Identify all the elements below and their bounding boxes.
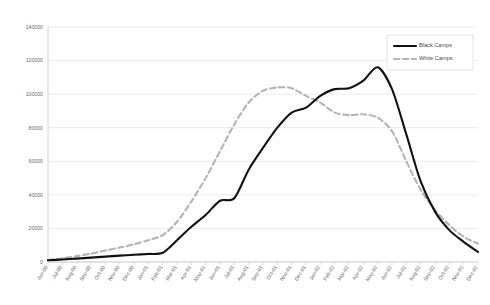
x-axis-tick-label: Jul-00 — [51, 264, 64, 279]
x-axis-tick-label: Sep-01 — [250, 264, 264, 281]
y-axis-tick-label: 120000 — [26, 57, 43, 63]
x-axis-tick-label: Jun-02 — [379, 264, 393, 281]
x-axis-tick-label: Oct-00 — [93, 264, 106, 280]
x-axis-tick-label: Aug-02 — [408, 264, 422, 281]
x-axis-tick-label: Sep-00 — [78, 264, 92, 281]
x-axis-tick-label: Jan-02 — [308, 264, 322, 281]
x-axis-tick-label: Nov-02 — [451, 264, 465, 281]
y-axis-tick-label: 0 — [40, 259, 43, 265]
y-axis-tick-label: 20000 — [29, 225, 44, 231]
x-axis-tick-label: Oct-02 — [437, 264, 450, 280]
x-axis-tick-label: Jan-01 — [136, 264, 150, 281]
x-axis-tick-label: Apr-01 — [179, 264, 192, 280]
x-axis-tick-label: Mar-02 — [336, 264, 350, 281]
x-axis-tick-label: Feb-02 — [322, 264, 336, 281]
x-axis-tick-label: Aug-01 — [236, 264, 250, 281]
legend-label-white-camps: White Camps — [419, 55, 453, 61]
legend-box — [387, 35, 473, 70]
line-chart: 020000400006000080000100000120000140000J… — [0, 0, 490, 305]
y-axis-tick-label: 40000 — [29, 192, 44, 198]
x-axis-tick-label: Feb-01 — [150, 264, 164, 281]
x-axis-tick-label: May-02 — [364, 264, 378, 282]
x-axis-tick-label: May-01 — [192, 264, 206, 282]
x-axis-tick-label: Nov-01 — [279, 264, 293, 281]
x-axis-tick-label: Nov-00 — [107, 264, 121, 281]
legend-label-black-camps: Black Camps — [419, 42, 452, 48]
x-axis-tick-label: Dec-00 — [121, 264, 135, 281]
x-axis-tick-label: Jul-02 — [395, 264, 408, 279]
y-axis-tick-label: 100000 — [26, 91, 43, 97]
y-axis-tick-label: 140000 — [26, 24, 43, 30]
y-axis-tick-label: 80000 — [29, 125, 44, 131]
series-line-black-camps — [48, 67, 478, 260]
x-axis-tick-label: Oct-01 — [265, 264, 278, 280]
chart-canvas: 020000400006000080000100000120000140000J… — [0, 0, 490, 305]
x-axis-tick-label: Jul-01 — [223, 264, 236, 279]
x-axis-tick-label: Apr-02 — [351, 264, 364, 280]
x-axis-tick-label: Jun-00 — [35, 264, 49, 281]
x-axis-tick-label: Mar-01 — [164, 264, 178, 281]
x-axis-tick-label: Dec-01 — [293, 264, 307, 281]
x-axis-tick-label: Sep-02 — [422, 264, 436, 281]
x-axis-tick-label: Jun-01 — [207, 264, 221, 281]
x-axis-tick-label: Aug-00 — [64, 264, 78, 281]
series-line-white-camps — [48, 87, 478, 260]
y-axis-tick-label: 60000 — [29, 158, 44, 164]
x-axis-tick-label: Dec-02 — [465, 264, 479, 281]
